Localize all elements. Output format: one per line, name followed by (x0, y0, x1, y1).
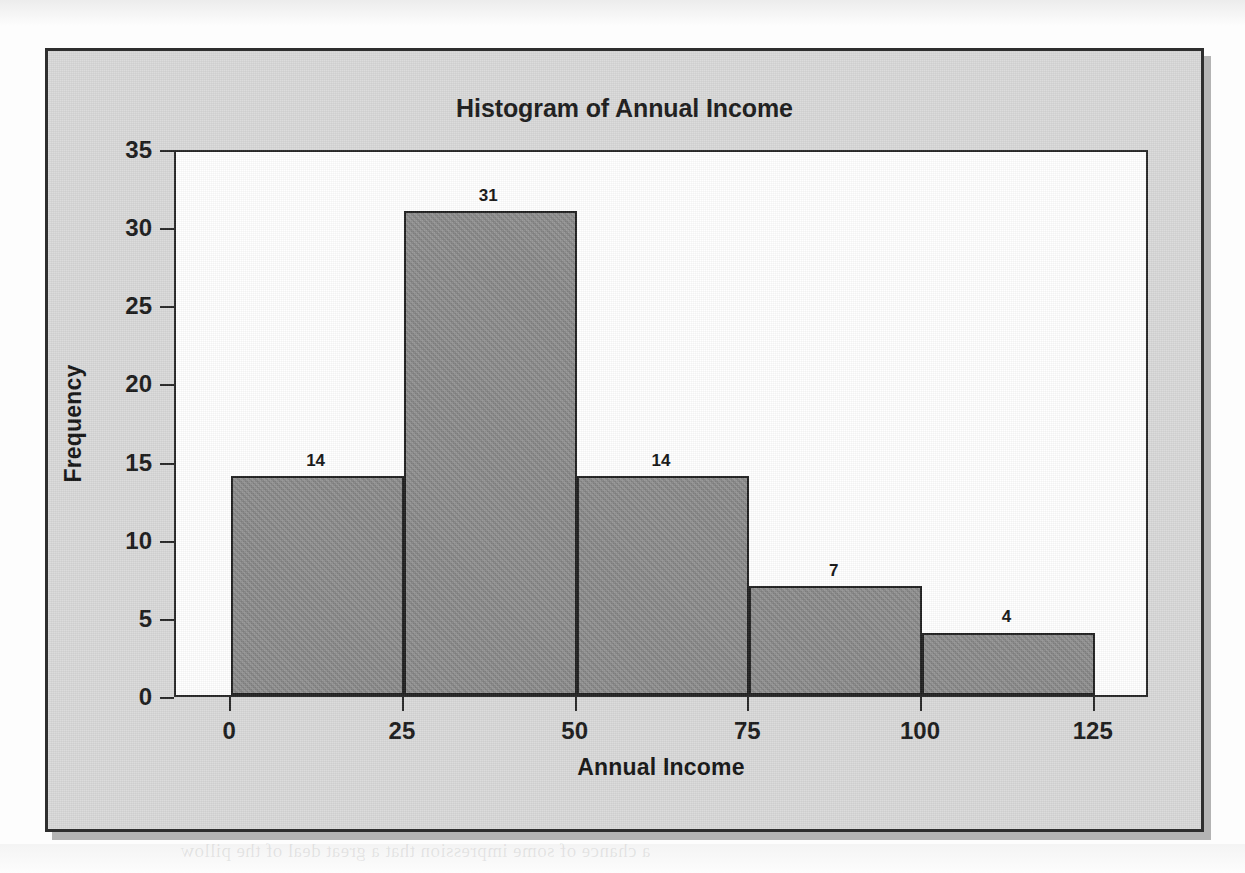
x-axis-tick-label: 125 (1033, 717, 1153, 745)
x-axis-tick (1093, 697, 1095, 711)
bar-value-label: 14 (306, 451, 325, 471)
bar-value-label: 4 (1002, 607, 1011, 627)
scan-streak-top (0, 0, 1245, 26)
histogram-bar (404, 211, 577, 695)
bar-value-label: 14 (652, 451, 671, 471)
x-axis-tick-label: 75 (687, 717, 807, 745)
y-axis-tick (160, 384, 174, 386)
bars-layer (176, 152, 1146, 695)
x-axis-tick (747, 697, 749, 711)
y-axis-tick-label: 35 (84, 136, 152, 164)
histogram-bar (922, 633, 1095, 696)
x-axis-tick (920, 697, 922, 711)
y-axis-title-text: Frequency (60, 364, 87, 482)
y-axis-tick (160, 463, 174, 465)
y-axis-tick (160, 541, 174, 543)
chart-panel: Histogram of Annual Income Frequency 051… (45, 48, 1204, 832)
bar-value-label: 31 (479, 186, 498, 206)
histogram-bar (577, 476, 750, 695)
y-axis-tick-label: 10 (84, 527, 152, 555)
y-axis-tick (160, 150, 174, 152)
y-axis-tick (160, 619, 174, 621)
y-axis-tick-label: 5 (84, 605, 152, 633)
y-axis-tick-label: 30 (84, 214, 152, 242)
y-axis-tick (160, 697, 174, 699)
page-bleed-text: a chance of some impression that a great… (180, 840, 650, 862)
x-axis-tick (402, 697, 404, 711)
y-axis-tick-label: 20 (84, 370, 152, 398)
y-axis-tick-label: 15 (84, 449, 152, 477)
y-axis-tick-label: 0 (84, 683, 152, 711)
y-axis-tick (160, 306, 174, 308)
y-axis-tick (160, 228, 174, 230)
x-axis-tick-label: 0 (169, 717, 289, 745)
histogram-bar (231, 476, 404, 695)
chart-title: Histogram of Annual Income (48, 94, 1201, 123)
x-axis-tick-label: 50 (515, 717, 635, 745)
y-axis-tick-label: 25 (84, 292, 152, 320)
x-axis-tick-label: 100 (860, 717, 980, 745)
x-axis-tick (229, 697, 231, 711)
bar-value-label: 7 (829, 561, 838, 581)
histogram-bar (749, 586, 922, 695)
x-axis-title: Annual Income (174, 754, 1148, 781)
x-axis-tick (575, 697, 577, 711)
x-axis-tick-label: 25 (342, 717, 462, 745)
